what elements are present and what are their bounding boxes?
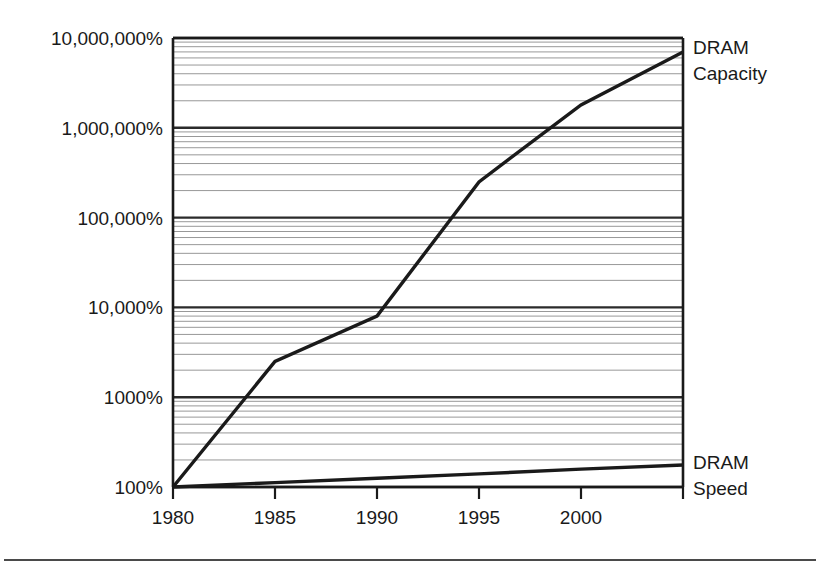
- x-tick-label: 1990: [356, 507, 398, 528]
- x-tick-label: 1985: [254, 507, 296, 528]
- y-tick-label: 10,000%: [88, 297, 163, 318]
- series-label-line2: Speed: [693, 478, 748, 499]
- series-label-line1: DRAM: [693, 37, 749, 58]
- x-tick-label: 1980: [152, 507, 194, 528]
- x-tick-label: 2000: [560, 507, 602, 528]
- series-label-line2: Capacity: [693, 63, 767, 84]
- x-tick-label: 1995: [458, 507, 500, 528]
- y-tick-label: 10,000,000%: [51, 28, 163, 49]
- y-tick-label: 1000%: [104, 387, 163, 408]
- y-tick-label: 100%: [114, 477, 163, 498]
- figure-container: 100%1000%10,000%100,000%1,000,000%10,000…: [0, 0, 820, 569]
- y-tick-label: 1,000,000%: [62, 118, 164, 139]
- dram-capacity-vs-speed-chart: 100%1000%10,000%100,000%1,000,000%10,000…: [0, 0, 820, 569]
- series-label-line1: DRAM: [693, 452, 749, 473]
- y-tick-label: 100,000%: [77, 208, 163, 229]
